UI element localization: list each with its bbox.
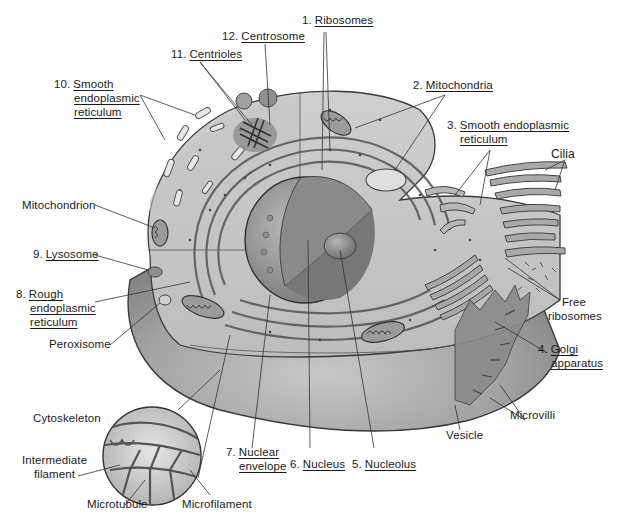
label-number: 5. <box>352 458 362 470</box>
label-text: Golgi <box>551 343 578 355</box>
label-text: Lysosome <box>46 248 99 260</box>
label-text: reticulum <box>74 105 140 119</box>
label-nucleolus: 5.Nucleolus <box>352 457 416 471</box>
label-number: 12. <box>222 30 238 42</box>
label-number: 1. <box>302 14 312 26</box>
label-vesicle: Vesicle <box>446 428 483 442</box>
label-rough-er: 8.Rough endoplasmic reticulum <box>16 287 96 329</box>
label-text: Intermediate <box>22 453 87 467</box>
vesicle-upper <box>366 169 406 191</box>
label-smooth-er-left: 10.Smooth endoplasmic reticulum <box>54 77 140 119</box>
label-text: Nucleolus <box>365 458 416 470</box>
label-text: Microtubule <box>87 498 148 510</box>
label-text: reticulum <box>30 315 96 329</box>
lysosome <box>148 267 162 277</box>
label-text: Microfilament <box>182 498 252 510</box>
label-number: 7. <box>226 446 236 458</box>
label-text: Centrosome <box>241 30 305 42</box>
label-number: 6. <box>290 458 300 470</box>
label-text: Smooth <box>73 78 113 90</box>
label-mitochondrion: Mitochondrion <box>22 198 96 212</box>
label-mitochondria: 2.Mitochondria <box>413 78 493 92</box>
label-text: Cytoskeleton <box>33 412 101 424</box>
label-peroxisome: Peroxisome <box>49 337 111 351</box>
label-text: Mitochondrion <box>22 199 96 211</box>
label-number: 3. <box>447 119 457 131</box>
label-text: Cilia <box>551 147 575 161</box>
label-nuclear-envelope: 7.Nuclear envelope <box>226 445 286 473</box>
label-text: Centrioles <box>189 48 242 60</box>
label-text: filament <box>22 467 87 481</box>
label-cytoskeleton: Cytoskeleton <box>33 411 101 425</box>
label-text: apparatus <box>551 356 603 370</box>
label-text: ribosomes <box>548 309 602 323</box>
label-number: 10. <box>54 78 70 90</box>
label-lysosome: 9.Lysosome <box>33 247 99 261</box>
nucleolus <box>324 233 356 259</box>
label-number: 4. <box>538 343 548 355</box>
label-text: Ribosomes <box>315 14 373 26</box>
label-text: envelope <box>239 459 286 473</box>
label-nucleus: 6.Nucleus <box>290 457 345 471</box>
label-text: Smooth endoplasmic <box>460 119 569 131</box>
label-text: endoplasmic <box>74 91 140 105</box>
label-number: 9. <box>33 248 43 260</box>
label-cilia: Cilia <box>551 147 575 161</box>
label-text: Nucleus <box>303 458 345 470</box>
label-golgi: 4.Golgi apparatus <box>538 342 603 370</box>
label-text: Vesicle <box>446 429 483 441</box>
label-free-ribosomes: Free ribosomes <box>548 295 602 323</box>
label-microfilament: Microfilament <box>182 497 252 511</box>
label-microtubule: Microtubule <box>87 497 148 511</box>
label-number: 11. <box>171 48 186 60</box>
label-number: 8. <box>16 288 26 300</box>
label-centrosome: 12.Centrosome <box>222 29 305 43</box>
nucleus <box>245 177 375 303</box>
label-text: reticulum <box>460 132 569 146</box>
label-intermediate-filament: Intermediate filament <box>22 453 87 481</box>
label-text: endoplasmic <box>30 301 96 315</box>
label-text: Free <box>562 295 602 309</box>
label-text: Rough <box>29 288 63 300</box>
label-number: 2. <box>413 79 423 91</box>
label-microvilli: Microvilli <box>510 408 555 422</box>
label-text: Peroxisome <box>49 338 111 350</box>
animal-cell-diagram: 1.Ribosomes 2.Mitochondria 3.Smooth endo… <box>0 0 618 521</box>
label-text: Mitochondria <box>426 79 493 91</box>
label-smooth-er-right: 3.Smooth endoplasmic reticulum <box>447 118 569 146</box>
peroxisome <box>159 295 171 305</box>
label-text: Microvilli <box>510 409 555 421</box>
label-text: Nuclear <box>239 446 279 458</box>
label-ribosomes: 1.Ribosomes <box>302 13 373 27</box>
label-centrioles: 11.Centrioles <box>171 47 242 61</box>
